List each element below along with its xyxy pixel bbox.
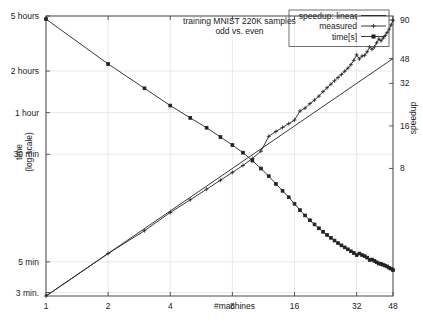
data-point-marker — [318, 227, 321, 230]
data-point-marker — [340, 244, 343, 247]
data-point-marker — [260, 167, 263, 170]
data-point-marker — [219, 136, 222, 139]
x-tick-label: 16 — [290, 301, 300, 311]
y-axis-left-title-line2: (log-scale) — [24, 132, 34, 172]
data-point-marker — [143, 87, 146, 90]
data-point-marker — [189, 116, 192, 119]
data-point-marker — [205, 126, 208, 129]
data-point-marker — [242, 151, 245, 154]
legend-label-2: measured — [319, 21, 357, 31]
y-left-tick-label: 2 hours — [11, 66, 39, 76]
data-point-marker — [107, 63, 110, 66]
data-point-marker — [275, 182, 278, 185]
data-point-marker — [304, 214, 307, 217]
data-point-marker — [326, 234, 329, 237]
data-point-marker — [231, 144, 234, 147]
y-right-tick-label: 8 — [400, 163, 405, 173]
x-tick-label: 1 — [44, 301, 49, 311]
chart-background — [0, 0, 423, 323]
data-point-marker — [267, 175, 270, 178]
chart-figure: 1248163248 5 hours2 hours1 hour30 min5 m… — [0, 0, 423, 323]
x-tick-label: 32 — [352, 301, 362, 311]
y-left-tick-label: 5 min — [18, 257, 39, 267]
data-point-marker — [349, 250, 352, 253]
y-right-tick-label: 90 — [400, 15, 410, 25]
y-left-tick-label: 3 min. — [16, 288, 39, 298]
data-point-marker — [299, 209, 302, 212]
y-right-tick-label: 32 — [400, 78, 410, 88]
y-left-tick-label: 1 hour — [15, 108, 39, 118]
x-tick-label: 4 — [168, 301, 173, 311]
data-point-marker — [346, 248, 349, 251]
data-point-marker — [45, 18, 48, 21]
legend-label-3: time[s] — [332, 32, 357, 42]
y-axis-right-title: speedup — [408, 101, 418, 134]
x-axis-title: #machines — [214, 301, 255, 311]
data-point-marker — [251, 159, 254, 162]
data-point-marker — [281, 189, 284, 192]
data-point-marker — [313, 223, 316, 226]
data-point-marker — [329, 236, 332, 239]
data-point-marker — [287, 196, 290, 199]
chart-title-line2: odd vs. even — [215, 26, 263, 36]
y-left-tick-label: 5 hours — [11, 11, 39, 21]
data-point-marker — [322, 230, 325, 233]
data-point-marker — [352, 252, 355, 255]
data-point-marker — [337, 242, 340, 245]
y-axis-left-title-line1: time — [14, 144, 24, 160]
chart-canvas: 1248163248 5 hours2 hours1 hour30 min5 m… — [0, 0, 423, 323]
data-point-marker — [333, 239, 336, 242]
legend-label-1: speedup: linear — [299, 11, 357, 21]
x-tick-label: 2 — [106, 301, 111, 311]
data-point-marker — [392, 269, 395, 272]
chart-title-line1: training MNIST 220K samples — [183, 16, 296, 26]
data-point-marker — [293, 202, 296, 205]
x-tick-label: 48 — [388, 301, 398, 311]
data-point-marker — [169, 104, 172, 107]
data-point-marker — [309, 219, 312, 222]
data-point-marker — [343, 246, 346, 249]
y-right-tick-label: 48 — [400, 54, 410, 64]
